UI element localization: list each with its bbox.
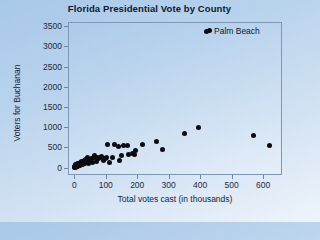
x-tick-label: 200 (130, 180, 144, 190)
data-point (72, 165, 77, 170)
y-tick-label: 0 (57, 163, 62, 173)
data-point (105, 142, 110, 147)
scatter-chart: Florida Presidential Vote by County Vote… (0, 0, 299, 222)
x-tick-label: 600 (256, 180, 270, 190)
chart-title: Florida Presidential Vote by County (0, 3, 299, 14)
y-tick-label: 2000 (43, 82, 62, 92)
data-point (160, 147, 165, 152)
x-tick (106, 175, 107, 179)
x-tick-label: 500 (225, 180, 239, 190)
data-point (196, 125, 201, 130)
data-point (110, 155, 115, 160)
x-tick (263, 175, 264, 179)
y-tick-label: 3500 (43, 21, 62, 31)
y-tick-label: 1500 (43, 102, 62, 112)
y-axis: 0500100015002000250030003500 (0, 22, 68, 175)
y-tick-label: 1000 (43, 122, 62, 132)
data-point (182, 131, 187, 136)
x-tick-label: 0 (72, 180, 77, 190)
x-tick (200, 175, 201, 179)
x-tick-label: 100 (99, 180, 113, 190)
annotation-marker-icon (204, 29, 209, 34)
y-tick-label: 500 (48, 142, 62, 152)
y-tick-label: 2500 (43, 62, 62, 72)
x-tick-label: 400 (193, 180, 207, 190)
data-point (140, 142, 145, 147)
x-tick-label: 300 (162, 180, 176, 190)
x-tick (137, 175, 138, 179)
data-point (267, 143, 272, 148)
annotation-label: Palm Beach (214, 26, 260, 36)
x-tick (74, 175, 75, 179)
x-axis-label: Total votes cast (in thousands) (68, 194, 282, 204)
y-tick-label: 3000 (43, 41, 62, 51)
data-point (251, 133, 256, 138)
data-point (154, 139, 159, 144)
annotation-palm-beach: Palm Beach (204, 26, 260, 36)
x-tick (232, 175, 233, 179)
x-tick (169, 175, 170, 179)
data-point (121, 143, 126, 148)
data-point (117, 158, 122, 163)
data-point (107, 160, 112, 165)
plot-area (68, 22, 282, 175)
data-point (126, 152, 131, 157)
